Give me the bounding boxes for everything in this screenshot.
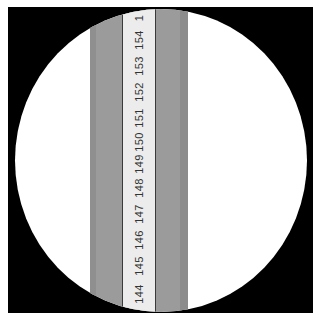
tape-mark: 1 — [132, 9, 146, 38]
measuring-tape: 144 145 146 147 148 149 150 151 152 153 … — [122, 9, 156, 312]
circular-aperture: 144 145 146 147 148 149 150 151 152 153 … — [15, 9, 307, 312]
band-edge-right — [180, 9, 188, 312]
grey-band: 144 145 146 147 148 149 150 151 152 153 … — [90, 9, 188, 312]
band-edge-left — [90, 9, 96, 312]
black-frame: 144 145 146 147 148 149 150 151 152 153 … — [8, 7, 313, 313]
